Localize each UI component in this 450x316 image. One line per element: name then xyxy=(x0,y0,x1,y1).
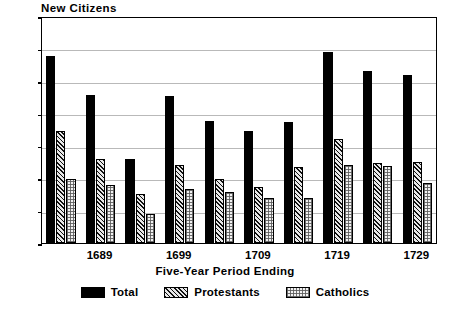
chart-legend: TotalProtestantsCatholics xyxy=(0,286,450,298)
bar-protestants xyxy=(373,163,382,243)
legend-item: Total xyxy=(81,286,139,298)
legend-label: Protestants xyxy=(194,286,259,298)
y-axis-tick-mark xyxy=(38,244,42,246)
bar-catholics xyxy=(304,198,313,243)
gridline xyxy=(42,83,436,84)
bar-catholics xyxy=(423,183,432,243)
bar-total xyxy=(165,96,174,243)
gridline xyxy=(42,148,436,149)
bar-protestants xyxy=(136,194,145,243)
bar-protestants xyxy=(56,131,65,243)
bar-protestants xyxy=(294,167,303,243)
bar-catholics xyxy=(383,166,392,243)
bar-total xyxy=(363,71,372,243)
plot-area xyxy=(41,17,437,244)
diagonal-hatch-swatch xyxy=(164,287,188,298)
x-axis-tick-label: 1699 xyxy=(166,249,192,261)
y-axis-tick-mark xyxy=(38,179,42,181)
bar-protestants xyxy=(334,139,343,243)
y-axis-tick-mark xyxy=(38,147,42,149)
bar-chart: New Citizens 050100150200250300350 16891… xyxy=(0,0,450,316)
bar-catholics xyxy=(146,214,155,243)
y-axis-tick-mark xyxy=(38,212,42,214)
dotted-grid-swatch xyxy=(286,287,310,298)
bar-catholics xyxy=(106,185,115,243)
chart-title: New Citizens xyxy=(41,2,117,14)
bar-catholics xyxy=(225,192,234,243)
legend-label: Total xyxy=(111,286,139,298)
y-axis-tick-mark xyxy=(38,82,42,84)
gridline xyxy=(42,115,436,116)
x-axis-tick-label: 1709 xyxy=(245,249,271,261)
x-axis-tick-label: 1719 xyxy=(324,249,350,261)
bar-total xyxy=(125,159,134,243)
bar-total xyxy=(244,131,253,243)
x-axis-tick-label: 1689 xyxy=(87,249,113,261)
bar-protestants xyxy=(175,165,184,243)
bar-total xyxy=(403,75,412,243)
gridline xyxy=(42,50,436,51)
bar-catholics xyxy=(264,198,273,243)
bar-protestants xyxy=(254,187,263,243)
bar-total xyxy=(284,122,293,243)
bar-total xyxy=(46,56,55,243)
x-axis-title: Five-Year Period Ending xyxy=(0,265,450,277)
legend-item: Protestants xyxy=(164,286,259,298)
legend-label: Catholics xyxy=(316,286,370,298)
y-axis-tick-mark xyxy=(38,115,42,117)
plot-inner xyxy=(42,18,436,243)
bar-catholics xyxy=(344,165,353,243)
bar-protestants xyxy=(96,159,105,243)
bar-total xyxy=(205,121,214,243)
bar-protestants xyxy=(413,162,422,243)
bar-protestants xyxy=(215,179,224,243)
bar-total xyxy=(86,95,95,243)
bar-catholics xyxy=(66,179,75,243)
bar-catholics xyxy=(185,189,194,243)
legend-item: Catholics xyxy=(286,286,370,298)
y-axis-tick-mark xyxy=(38,17,42,19)
bar-total xyxy=(323,52,332,243)
x-axis-tick-label: 1729 xyxy=(404,249,430,261)
y-axis-tick-mark xyxy=(38,50,42,52)
solid-black-swatch xyxy=(81,287,105,298)
